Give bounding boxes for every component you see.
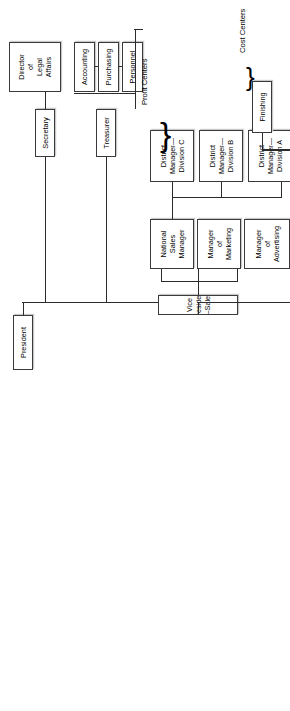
connector-president-stem: [23, 303, 24, 315]
node-district-manager-div-b[interactable]: District Manager— Division B: [199, 130, 243, 182]
connector-marketing: [198, 269, 199, 282]
connector-trunk-to-secretary: [22, 302, 32, 304]
node-president[interactable]: President: [13, 315, 33, 370]
org-chart-page: President Secretary Director of Legal Af…: [0, 0, 290, 711]
connector-dm-b: [221, 182, 222, 198]
node-national-sales-manager[interactable]: National Sales Manager: [150, 219, 194, 269]
node-district-manager-div-c[interactable]: District Manager— Division C: [150, 130, 194, 182]
connector-dm-a: [281, 182, 282, 198]
cost-centers-brace: }: [246, 66, 255, 88]
connector-nsm-out: [172, 197, 173, 219]
node-manager-marketing[interactable]: Manager of Marketing: [197, 219, 241, 269]
connector-trunk-down-production: [197, 302, 290, 304]
connector-personnel-drop: [134, 29, 143, 30]
profit-centers-label: Profit Centers: [140, 59, 149, 105]
connector-vp-sales-stem: [198, 281, 199, 295]
node-district-manager-div-a[interactable]: District Manager— Division A: [248, 130, 290, 182]
connector-dm-c: [172, 182, 173, 198]
connector-treasurer-stem: [106, 157, 107, 303]
node-director-legal-affairs[interactable]: Director of Legal Affairs: [9, 42, 61, 92]
connector-vp-sales-bus: [161, 281, 237, 282]
profit-centers-brace: }: [160, 121, 171, 147]
node-manager-advertising[interactable]: Manager of Advertising: [244, 219, 290, 269]
node-finishing[interactable]: Finishing: [252, 81, 272, 133]
connector-treasurer-unit-bus: [135, 29, 136, 109]
connector-secretary-legal: [45, 92, 46, 109]
connector-secretary-stem: [45, 157, 46, 303]
connector-nsm: [161, 269, 162, 282]
cost-centers-label: Cost Centers: [238, 9, 247, 53]
node-treasurer[interactable]: Treasurer: [96, 109, 116, 157]
node-secretary[interactable]: Secretary: [35, 109, 55, 157]
org-chart-canvas: President Secretary Director of Legal Af…: [0, 0, 290, 711]
node-accounting[interactable]: Accounting: [74, 42, 95, 92]
connector-treasurer-bus-vert: [74, 93, 136, 94]
connector-trunk-vp-sales: [198, 303, 199, 315]
connector-cost-center-bus: [262, 150, 290, 152]
node-purchasing[interactable]: Purchasing: [98, 42, 119, 92]
connector-advertising: [237, 269, 238, 282]
connector-finishing: [262, 133, 263, 151]
connector-district-bus: [172, 197, 282, 198]
